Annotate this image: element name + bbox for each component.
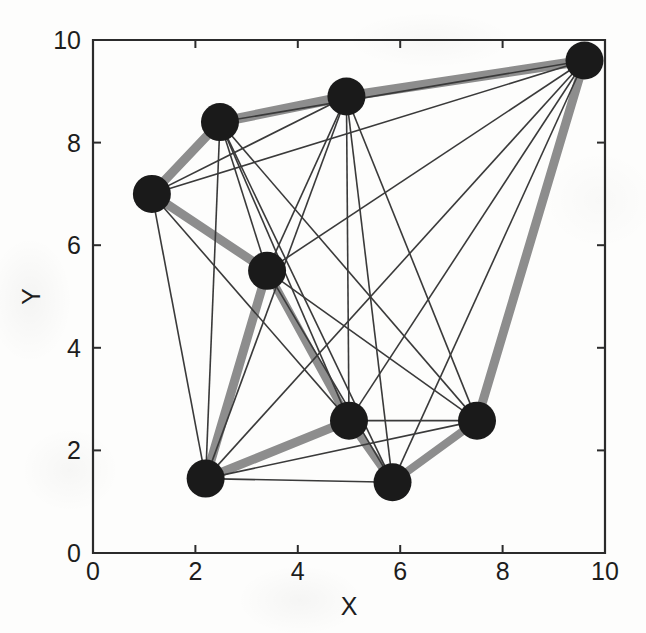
graph-edge-thick xyxy=(477,61,585,421)
graph-node xyxy=(566,42,604,80)
graph-edge-thick xyxy=(206,421,349,479)
graph-edge-thin xyxy=(152,194,206,479)
graph-node xyxy=(458,402,496,440)
figure-canvas: 02468100246810XY xyxy=(0,0,646,633)
graph-node xyxy=(201,103,239,141)
y-tick-label: 0 xyxy=(67,539,81,567)
graph-edge-thin xyxy=(206,479,393,483)
graph-edge-thick xyxy=(206,271,267,479)
x-axis-title: X xyxy=(341,592,358,620)
network-graph-plot: 02468100246810XY xyxy=(0,0,646,633)
graph-node xyxy=(327,77,365,115)
x-tick-label: 10 xyxy=(591,557,619,585)
x-tick-label: 2 xyxy=(188,557,202,585)
x-tick-label: 6 xyxy=(393,557,407,585)
x-tick-label: 0 xyxy=(86,557,100,585)
x-tick-label: 8 xyxy=(496,557,510,585)
y-tick-label: 2 xyxy=(67,436,81,464)
graph-node xyxy=(330,402,368,440)
graph-edge-thin xyxy=(346,96,349,420)
x-tick-label: 4 xyxy=(291,557,305,585)
y-tick-label: 6 xyxy=(67,231,81,259)
graph-node xyxy=(248,252,286,290)
graph-node xyxy=(187,460,225,498)
y-axis-title: Y xyxy=(17,288,45,305)
y-tick-label: 4 xyxy=(67,334,81,362)
graph-node xyxy=(374,463,412,501)
y-tick-label: 8 xyxy=(67,129,81,157)
graph-edge-thin xyxy=(349,61,585,421)
graph-edge-thin xyxy=(267,271,477,421)
graph-edge-thin xyxy=(152,96,347,193)
graph-node xyxy=(133,175,171,213)
y-tick-label: 10 xyxy=(53,26,81,54)
graph-edge-thin xyxy=(220,61,585,123)
axis-label-group: 02468100246810XY xyxy=(17,26,619,620)
